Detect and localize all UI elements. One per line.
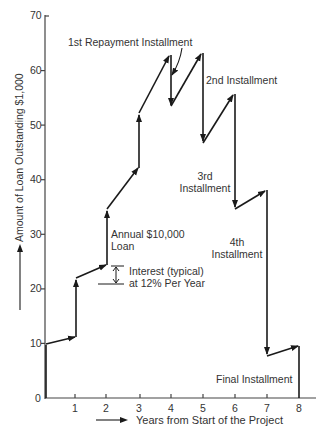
repayment-pointer xyxy=(172,48,182,75)
y-tick-40: 40 xyxy=(30,173,42,185)
annotation-4th-line2: Installment xyxy=(210,248,264,260)
annotation-1st-repayment: 1st Repayment Installment xyxy=(68,36,192,48)
ylabel-arrow-icon xyxy=(17,244,23,310)
y-tick-30: 30 xyxy=(30,228,42,240)
x-tick-7: 7 xyxy=(264,402,270,414)
annotation-annual-line1: Annual $10,000 xyxy=(111,228,185,240)
xlabel-arrow-icon xyxy=(96,417,128,423)
y-tick-60: 60 xyxy=(30,64,42,76)
annotation-3rd-line2: Installment xyxy=(178,182,232,194)
annotation-interest: Interest (typical) at 12% Per Year xyxy=(129,265,205,289)
x-tick-5: 5 xyxy=(200,402,206,414)
interest-dimension xyxy=(98,266,124,284)
annotation-3rd-installment: 3rd Installment xyxy=(178,170,232,194)
x-tick-4: 4 xyxy=(168,402,174,414)
y-tick-10: 10 xyxy=(30,337,42,349)
annotation-4th-installment: 4th Installment xyxy=(210,236,264,260)
x-tick-3: 3 xyxy=(136,402,142,414)
x-tick-2: 2 xyxy=(103,402,109,414)
x-tick-1: 1 xyxy=(72,402,78,414)
annotation-annual-loan: Annual $10,000 Loan xyxy=(111,228,185,252)
annotation-3rd-line1: 3rd xyxy=(178,170,232,182)
y-tick-70: 70 xyxy=(30,9,42,21)
y-tick-50: 50 xyxy=(30,119,42,131)
annotation-annual-line2: Loan xyxy=(111,240,185,252)
y-tick-0: 0 xyxy=(35,392,41,404)
annotation-final-installment: Final Installment xyxy=(216,373,292,385)
annotation-interest-line1: Interest (typical) xyxy=(129,265,205,277)
x-tick-6: 6 xyxy=(232,402,238,414)
y-tick-20: 20 xyxy=(30,282,42,294)
x-axis xyxy=(45,394,316,398)
annotation-4th-line1: 4th xyxy=(210,236,264,248)
y-axis-label: Amount of Loan Outstanding $1,000 xyxy=(13,73,25,242)
annotation-interest-line2: at 12% Per Year xyxy=(129,277,205,289)
y-axis xyxy=(41,15,49,399)
annotation-2nd-installment: 2nd Installment xyxy=(206,74,277,86)
x-axis-label: Years from Start of the Project xyxy=(136,414,283,426)
loan-series xyxy=(46,53,299,398)
x-tick-8: 8 xyxy=(296,402,302,414)
